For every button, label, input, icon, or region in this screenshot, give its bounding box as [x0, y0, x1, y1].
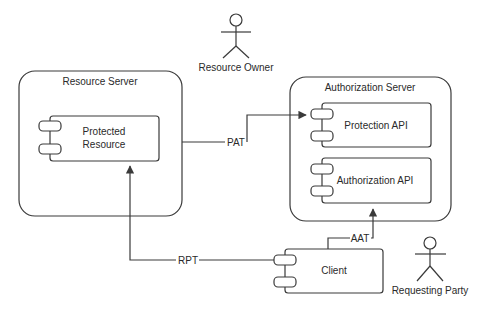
authorization-api-component: Authorization API [311, 158, 431, 203]
component-tab-icon [39, 121, 61, 131]
rpt-label: RPT [178, 255, 198, 266]
component-tab-icon [311, 164, 333, 174]
uml-diagram: Resource Owner Resource Server Protected… [0, 0, 481, 309]
resource-owner-actor: Resource Owner [198, 14, 274, 73]
pat-connector: PAT [182, 115, 306, 148]
protection-api-label: Protection API [344, 120, 407, 131]
protection-api-component: Protection API [311, 103, 431, 147]
component-tab-icon [311, 186, 333, 196]
protected-resource-label-line1: Protected [83, 126, 126, 137]
component-tab-icon [274, 277, 296, 287]
component-tab-icon [39, 144, 61, 154]
pat-label: PAT [227, 137, 245, 148]
aat-label: AAT [351, 233, 370, 244]
client-component: Client [274, 249, 383, 293]
resource-server-label: Resource Server [62, 76, 138, 87]
requesting-party-label: Requesting Party [392, 285, 469, 296]
protected-resource-label-line2: Resource [83, 139, 126, 150]
resource-owner-label: Resource Owner [198, 62, 274, 73]
component-tab-icon [311, 131, 333, 141]
protected-resource-component: Protected Resource [39, 116, 159, 161]
client-label: Client [321, 265, 347, 276]
component-tab-icon [274, 255, 296, 265]
authorization-api-label: Authorization API [337, 175, 414, 186]
component-tab-icon [311, 109, 333, 119]
requesting-party-actor: Requesting Party [392, 237, 469, 296]
authorization-server-label: Authorization Server [325, 82, 416, 93]
